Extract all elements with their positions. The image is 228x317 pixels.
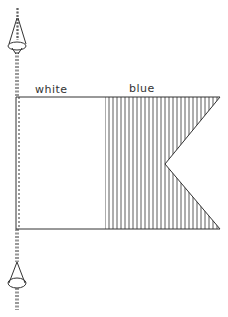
flag-diagram	[0, 0, 228, 317]
label-blue: blue	[129, 82, 155, 95]
blue-hatching	[105, 97, 217, 229]
label-white: white	[35, 83, 68, 96]
halyard-bottom	[8, 229, 26, 310]
halyard-top	[8, 8, 26, 97]
